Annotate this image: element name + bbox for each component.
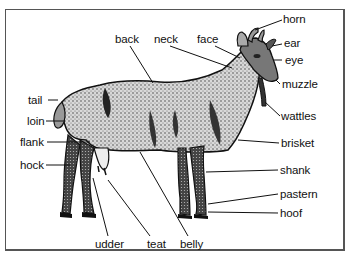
label-ear: ear [284,37,300,49]
label-tail: tail [28,94,42,106]
label-shank: shank [280,164,310,176]
label-belly: belly [180,238,203,250]
goat-front-leg-far [178,148,190,215]
label-back: back [115,33,139,45]
label-udder: udder [95,238,124,250]
label-hock: hock [20,159,44,171]
goat-ear [237,32,248,46]
goat-front-leg-near [190,146,206,215]
label-brisket: brisket [281,137,314,149]
label-horn: horn [283,13,306,25]
goat-hind-leg-near [80,140,94,214]
label-hoof: hoof [280,207,302,219]
label-loin: loin [27,115,45,127]
label-wattles: wattles [281,110,316,122]
goat-udder [94,148,109,170]
goat-body [61,48,259,152]
label-muzzle: muzzle [282,78,318,90]
label-eye: eye [285,54,303,66]
goat-wattles [258,78,266,106]
label-face: face [197,33,218,45]
label-flank: flank [20,136,44,148]
goat-eye [254,54,261,58]
goat-hind-leg-far [62,135,80,214]
label-pastern: pastern [280,188,318,200]
label-neck: neck [154,33,178,45]
goat-tail [54,102,65,128]
label-teat: teat [147,238,166,250]
